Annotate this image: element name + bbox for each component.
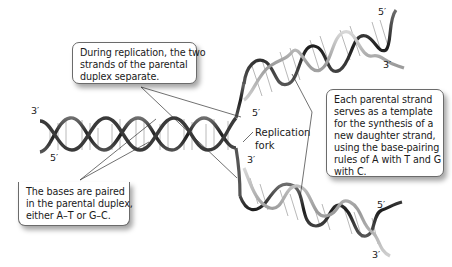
callout-text-line: strands of the parental [80,59,190,71]
fork-strand-upper [236,82,244,118]
callout-text-line: duplex separate. [80,71,190,83]
leader-fork [243,132,253,142]
callout-text-line: serves as a template [334,106,437,118]
leader-template-1 [292,74,312,112]
callout-text-line: During replication, the two [80,47,190,59]
callout-text-line: Each parental strand [334,94,437,106]
fork-strand-lower [236,148,240,196]
fork-label-line: fork [255,139,310,152]
callout-text-line: in the parental duplex, [26,198,123,210]
callout-text-line: rules of A with T and G [334,154,437,166]
upper-duplex-base-pairs [252,20,388,96]
callout-strand-separation: During replication, the two strands of t… [72,42,197,84]
end-label-lower-5prime: 5′ [377,200,385,210]
callout-text-line: The bases are paired [26,186,123,198]
callout-base-pairing: The bases are paired in the parental dup… [18,182,130,226]
end-label-parent-3prime: 3′ [31,106,39,116]
dna-replication-diagram: During replication, the two strands of t… [0,0,452,267]
end-label-fork-5prime: 5′ [252,108,260,118]
end-label-upper-3prime: 3′ [383,60,391,70]
callout-text-line: either A–T or G–C. [26,210,123,222]
callout-text-line: using the base-pairing [334,142,437,154]
lower-duplex-parental-strand [240,184,402,236]
lower-duplex-daughter-strand [244,168,390,256]
end-label-lower-3prime: 3′ [372,250,380,260]
leader-separation-2 [141,87,237,178]
upper-duplex-parental-strand [244,10,396,85]
callout-text-line: with C. [334,166,437,178]
leader-template-2 [300,112,312,198]
leader-separation-1 [141,87,241,117]
callout-text-line: new daughter strand, [334,130,437,142]
callout-text-line: for the synthesis of a [334,118,437,130]
end-label-upper-5prime: 5′ [378,7,386,17]
end-label-parent-5prime: 5′ [50,153,58,163]
parental-strand-b [40,118,236,150]
replication-fork-label: Replication fork [255,126,310,152]
end-label-fork-3prime: 3′ [247,155,255,165]
parental-strand-a [40,118,236,152]
fork-label-line: Replication [255,126,310,139]
callout-template-strand: Each parental strand serves as a templat… [326,89,444,177]
